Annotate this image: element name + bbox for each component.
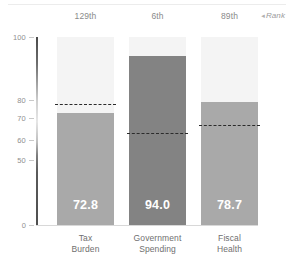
category-label-fiscal-health: FiscalHealth: [189, 233, 270, 254]
y-tick-mark-100: [29, 37, 34, 38]
y-tick-mark-80: [29, 100, 34, 101]
category-label-tax-burden: TaxBurden: [45, 233, 126, 254]
category-label-line: Burden: [45, 244, 126, 255]
y-tick-mark-60: [29, 140, 34, 141]
y-tick-mark-0: [29, 225, 34, 226]
plot-area: 10080706050072.8TaxBurden94.0GovernmentS…: [0, 0, 288, 266]
y-tick-label-100: 100: [2, 33, 26, 42]
y-tick-label-50: 50: [2, 156, 26, 165]
y-tick-label-70: 70: [2, 114, 26, 123]
category-label-line: Spending: [117, 244, 198, 255]
y-tick-mark-70: [29, 118, 34, 119]
average-reference-line-fiscal-health: [199, 125, 260, 126]
average-reference-line-tax-burden: [55, 104, 116, 105]
y-tick-label-0: 0: [2, 221, 26, 230]
economic-freedom-subindex-bar-chart: 129th 6th 89th ◂Rank 10080706050072.8Tax…: [0, 0, 288, 266]
y-tick-label-60: 60: [2, 136, 26, 145]
category-label-line: Health: [189, 244, 270, 255]
bar-value-tax-burden: 72.8: [57, 198, 114, 212]
category-label-line: Government: [117, 233, 198, 244]
y-axis-spine: [36, 37, 38, 225]
average-reference-line-government-spending: [127, 133, 188, 134]
bar-value-fiscal-health: 78.7: [201, 198, 258, 212]
category-label-line: Fiscal: [189, 233, 270, 244]
y-tick-label-80: 80: [2, 96, 26, 105]
category-label-government-spending: GovernmentSpending: [117, 233, 198, 254]
bar-value-government-spending: 94.0: [129, 198, 186, 212]
x-axis-baseline: [36, 225, 258, 226]
category-label-line: Tax: [45, 233, 126, 244]
y-tick-mark-50: [29, 160, 34, 161]
